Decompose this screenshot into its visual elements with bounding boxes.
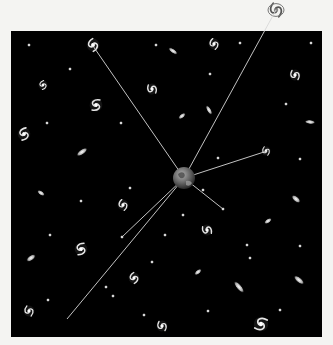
distant-galaxy-dot: [111, 294, 115, 298]
distant-galaxy-dot: [238, 41, 242, 45]
distant-galaxy-dot: [284, 102, 288, 106]
distant-galaxy-dot: [154, 43, 158, 47]
distant-galaxy-dot: [68, 67, 72, 71]
distant-galaxy-dot: [201, 188, 205, 192]
distant-galaxy-dot: [128, 186, 132, 190]
earth-globe: [173, 167, 195, 189]
cosmic-field-diagram: [0, 0, 333, 345]
distant-galaxy-dot: [248, 256, 252, 260]
distant-galaxy-dot: [278, 308, 282, 312]
distant-galaxy-dot: [245, 243, 249, 247]
distant-galaxy-dot: [298, 244, 302, 248]
spiral-galaxy: [24, 306, 35, 317]
distant-galaxy-dot: [79, 199, 83, 203]
distant-galaxy-dot: [216, 156, 220, 160]
distant-galaxy-dot: [208, 72, 212, 76]
distant-galaxy-dot: [27, 43, 31, 47]
distant-galaxy-dot: [48, 233, 52, 237]
distant-galaxy-dot: [206, 309, 210, 313]
galaxy-field-canvas: [0, 0, 333, 345]
distant-galaxy-dot: [46, 298, 50, 302]
distant-galaxy-dot: [298, 157, 302, 161]
distant-galaxy-dot: [142, 313, 146, 317]
space-background: [11, 31, 322, 337]
distant-galaxy-dot: [45, 121, 49, 125]
distant-galaxy-dot: [309, 41, 313, 45]
distant-galaxy-dot: [119, 121, 123, 125]
distant-galaxy-dot: [163, 233, 167, 237]
distant-galaxy-dot: [104, 285, 108, 289]
distant-galaxy-dot: [181, 213, 185, 217]
distant-galaxy-dot: [150, 260, 154, 264]
earth-icon: [173, 167, 195, 189]
